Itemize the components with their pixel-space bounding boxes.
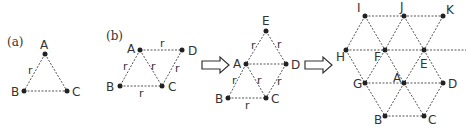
label-G: G <box>353 77 362 91</box>
label-E: E <box>262 14 270 28</box>
node-I <box>363 14 368 19</box>
panel-b: (b) A D B C r r r r r <box>106 29 197 100</box>
edge-label-AC: r <box>257 74 262 87</box>
label-F: F <box>374 50 381 64</box>
panel-a: (a) A B C r <box>7 35 80 99</box>
edge-ED <box>266 31 286 64</box>
node-D <box>180 48 185 53</box>
panel-b-label: (b) <box>106 29 123 43</box>
label-B: B <box>215 92 223 106</box>
node-C <box>422 114 427 119</box>
label-C: C <box>168 80 176 94</box>
edge-label-AB: r <box>123 60 128 73</box>
label-A: A <box>127 42 136 56</box>
edge-label-ED: r <box>277 38 282 51</box>
edge-AC <box>404 83 424 116</box>
label-B: B <box>374 113 382 127</box>
edge-label-AC: r <box>151 60 156 73</box>
node-E <box>422 48 427 53</box>
edge-AC <box>246 64 266 98</box>
hollow-right-arrow-icon <box>305 57 332 73</box>
node-B <box>118 84 123 89</box>
node-B <box>22 89 27 94</box>
edge-GB <box>365 83 385 116</box>
node-A <box>138 48 143 53</box>
node-G <box>363 81 368 86</box>
edge-JE <box>404 16 424 50</box>
label-D: D <box>448 77 457 91</box>
label-A: A <box>233 57 242 71</box>
node-A <box>244 62 249 67</box>
edge-AC <box>45 54 67 91</box>
label-J: J <box>399 0 404 14</box>
panel-a-label: (a) <box>7 35 24 49</box>
edge-EA <box>246 31 266 64</box>
edge-label-DC: r <box>175 62 180 75</box>
triangular-lattice-diagram: (a) A B C r (b) A D B C r r r r r <box>0 0 472 129</box>
label-E: E <box>420 57 428 71</box>
edge-label-AD: r <box>160 37 165 50</box>
panel-d: I J K H F E G A D B C <box>336 0 466 127</box>
node-J <box>402 14 407 19</box>
node-C <box>264 96 269 101</box>
node-D <box>284 62 289 67</box>
node-A <box>402 81 407 86</box>
node-C <box>160 84 165 89</box>
label-D: D <box>291 58 300 72</box>
node-F <box>383 48 388 53</box>
edge-IH <box>346 16 365 50</box>
edge-label-BC: r <box>245 99 250 112</box>
node-B <box>383 114 388 119</box>
label-A: A <box>393 71 402 85</box>
label-C: C <box>428 113 436 127</box>
label-B: B <box>106 80 114 94</box>
edge-label-DC: r <box>277 75 282 88</box>
node-B <box>226 96 231 101</box>
label-H: H <box>336 50 345 64</box>
label-B: B <box>11 85 19 99</box>
node-D <box>441 81 446 86</box>
node-C <box>65 89 70 94</box>
panel-c: E A D B C r r r r r r <box>215 14 300 112</box>
node-K <box>441 14 446 19</box>
edge-label-EA: r <box>251 39 256 52</box>
edge-label-r: r <box>28 64 33 77</box>
edge-KE <box>424 16 443 50</box>
label-I: I <box>357 1 361 15</box>
edge-DC <box>424 83 443 116</box>
label-C: C <box>271 92 279 106</box>
edge-IF <box>365 16 385 50</box>
edge-label-BC: r <box>139 87 144 100</box>
edge-label-AB: r <box>232 74 237 87</box>
label-K: K <box>446 3 455 17</box>
edge-JF <box>385 16 404 50</box>
node-E <box>264 29 269 34</box>
edge-AB <box>385 83 404 116</box>
label-A: A <box>40 38 49 52</box>
node-A <box>43 52 48 57</box>
label-C: C <box>72 85 80 99</box>
label-D: D <box>188 44 197 58</box>
hollow-right-arrow-icon <box>202 57 229 73</box>
